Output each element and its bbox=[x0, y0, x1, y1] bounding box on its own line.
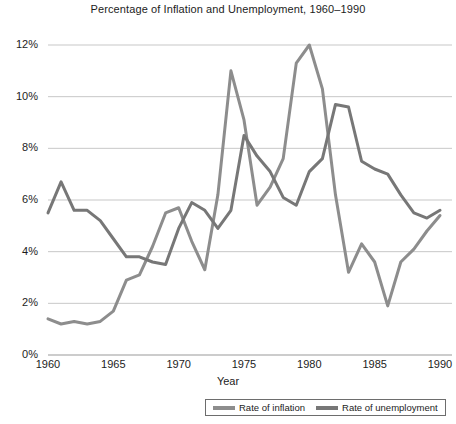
x-axis-tick-label: 1975 bbox=[221, 358, 267, 370]
x-axis-tick-label: 1960 bbox=[25, 358, 71, 370]
legend-item: Rate of inflation bbox=[213, 402, 305, 413]
y-axis-tick-label: 10% bbox=[4, 90, 38, 102]
y-axis-tick-label: 8% bbox=[4, 141, 38, 153]
x-axis-tick-label: 1990 bbox=[417, 358, 456, 370]
y-axis-tick-label: 12% bbox=[4, 38, 38, 50]
legend-label: Rate of unemployment bbox=[342, 402, 438, 413]
legend-swatch-icon bbox=[213, 406, 235, 410]
legend-item: Rate of unemployment bbox=[316, 402, 438, 413]
x-axis-tick-label: 1970 bbox=[156, 358, 202, 370]
x-axis-tick-label: 1985 bbox=[352, 358, 398, 370]
gridlines bbox=[48, 45, 452, 355]
series-lines bbox=[48, 45, 440, 324]
y-axis-tick-label: 6% bbox=[4, 193, 38, 205]
x-axis-tick-label: 1980 bbox=[286, 358, 332, 370]
series-line-inflation bbox=[48, 45, 440, 324]
chart-container: Percentage of Inflation and Unemployment… bbox=[0, 0, 456, 424]
x-axis-label: Year bbox=[0, 375, 456, 387]
y-axis-tick-label: 4% bbox=[4, 245, 38, 257]
legend-label: Rate of inflation bbox=[239, 402, 305, 413]
y-axis-tick-label: 2% bbox=[4, 296, 38, 308]
chart-legend: Rate of inflationRate of unemployment bbox=[205, 399, 446, 416]
x-axis-tick-label: 1965 bbox=[90, 358, 136, 370]
legend-swatch-icon bbox=[316, 406, 338, 410]
